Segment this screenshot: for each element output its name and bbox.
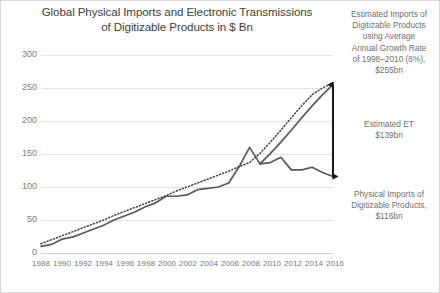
y-tick-50: 50 — [3, 214, 37, 224]
gridline-200 — [41, 121, 333, 122]
x-axis-line — [41, 253, 333, 254]
gridline-150 — [41, 154, 333, 155]
plot-area — [41, 55, 333, 253]
y-tick-0: 0 — [3, 247, 37, 257]
y-tick-200: 200 — [3, 115, 37, 125]
chart-title: Global Physical Imports and Electronic T… — [23, 5, 331, 34]
gridline-50 — [41, 220, 333, 221]
y-tick-150: 150 — [3, 148, 37, 158]
x-tick-2016: 2016 — [323, 259, 347, 268]
y-tick-250: 250 — [3, 82, 37, 92]
gridline-250 — [41, 88, 333, 89]
annotation-estimated-imports: Estimated Imports of Digitizable Product… — [341, 9, 437, 76]
x-axis: 1988 1990 1992 1994 1996 1998 2000 2002 … — [29, 259, 345, 273]
annotation-estimated-et: Estimated ET $139bn — [341, 119, 437, 141]
gridline-300 — [41, 55, 333, 56]
gridline-100 — [41, 187, 333, 188]
chart-figure: Global Physical Imports and Electronic T… — [0, 0, 440, 293]
y-tick-300: 300 — [3, 49, 37, 59]
y-tick-100: 100 — [3, 181, 37, 191]
y-axis: 300 250 200 150 100 50 0 — [1, 55, 37, 253]
annotation-physical-imports: Physical Imports of Digitizable Products… — [341, 189, 437, 223]
